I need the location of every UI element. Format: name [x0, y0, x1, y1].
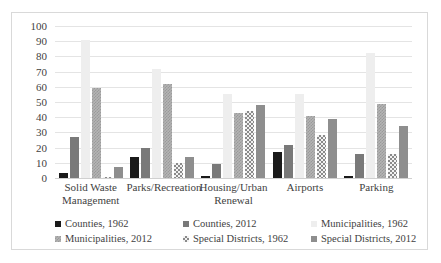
bar[interactable] [328, 119, 337, 178]
bar[interactable] [284, 145, 293, 178]
bar-group-bars [55, 26, 126, 178]
bar[interactable] [201, 176, 210, 178]
legend-item[interactable]: Municipalities, 1962 [311, 219, 408, 230]
y-axis: 1009080706050403020100 [12, 26, 52, 178]
bar[interactable] [388, 154, 397, 178]
y-axis-tick-label: 90 [36, 36, 47, 47]
legend-swatch-icon [311, 236, 317, 242]
bar[interactable] [344, 176, 353, 178]
y-axis-tick-label: 60 [36, 81, 47, 92]
x-axis-label-line: Parking [341, 181, 412, 194]
bar[interactable] [377, 104, 386, 178]
y-axis-tick-label: 100 [31, 21, 48, 32]
bar[interactable] [103, 177, 112, 178]
bar-group [269, 26, 340, 178]
x-axis-category-label: Parks/Recreation [126, 181, 197, 194]
bar[interactable] [59, 173, 68, 178]
x-axis: Solid WasteManagementParks/RecreationHou… [55, 181, 412, 217]
legend-item-label: Special Districts, 2012 [321, 234, 416, 245]
bar[interactable] [273, 152, 282, 178]
bar[interactable] [355, 154, 364, 178]
bar[interactable] [234, 113, 243, 178]
bar[interactable] [366, 53, 375, 178]
chart-legend: Counties, 1962Counties, 2012Municipaliti… [55, 218, 415, 248]
x-axis-category-label: Airports [269, 181, 340, 194]
chart-frame: 1009080706050403020100 Solid WasteManage… [11, 12, 428, 250]
bar[interactable] [306, 116, 315, 178]
x-axis-category-label: Housing/UrbanRenewal [198, 181, 269, 206]
y-axis-tick-label: 50 [36, 97, 47, 108]
x-axis-category-label: Parking [341, 181, 412, 194]
bar[interactable] [114, 167, 123, 178]
bar[interactable] [152, 69, 161, 178]
bar[interactable] [399, 126, 408, 178]
bar-group [55, 26, 126, 178]
y-axis-tick-label: 10 [36, 157, 47, 168]
legend-item-label: Municipalities, 1962 [321, 219, 408, 230]
y-axis-tick-label: 80 [36, 51, 47, 62]
gridline [55, 178, 412, 179]
bar-group [341, 26, 412, 178]
x-axis-label-line: Renewal [198, 194, 269, 207]
bar[interactable] [295, 94, 304, 178]
bar-group-bars [198, 26, 269, 178]
bar[interactable] [141, 148, 150, 178]
legend-swatch-icon [55, 236, 61, 242]
bar[interactable] [212, 164, 221, 178]
legend-swatch-icon [183, 236, 189, 242]
bar[interactable] [92, 88, 101, 178]
legend-swatch-icon [183, 221, 189, 227]
bar[interactable] [245, 111, 254, 178]
y-axis-tick-label: 40 [36, 112, 47, 123]
legend-swatch-icon [55, 221, 61, 227]
bar[interactable] [81, 40, 90, 178]
legend-item-label: Special Districts, 1962 [193, 234, 288, 245]
bar-group-bars [126, 26, 197, 178]
bar-group-bars [341, 26, 412, 178]
bar-group [198, 26, 269, 178]
bar-group [126, 26, 197, 178]
x-axis-label-line: Management [55, 194, 126, 207]
x-axis-label-line: Airports [269, 181, 340, 194]
bar[interactable] [185, 157, 194, 178]
bar[interactable] [223, 94, 232, 178]
bar-group-bars [269, 26, 340, 178]
legend-item[interactable]: Municipalities, 2012 [55, 234, 152, 245]
x-axis-label-line: Solid Waste [55, 181, 126, 194]
y-axis-tick-label: 30 [36, 127, 47, 138]
bar[interactable] [163, 84, 172, 178]
legend-item[interactable]: Counties, 2012 [183, 219, 257, 230]
y-axis-tick-label: 0 [42, 173, 48, 184]
bar[interactable] [174, 163, 183, 178]
legend-item[interactable]: Counties, 1962 [55, 219, 129, 230]
legend-item[interactable]: Special Districts, 1962 [183, 234, 288, 245]
y-axis-tick-label: 70 [36, 66, 47, 77]
x-axis-category-label: Solid WasteManagement [55, 181, 126, 206]
legend-item-label: Counties, 1962 [65, 219, 129, 230]
x-axis-label-line: Housing/Urban [198, 181, 269, 194]
x-axis-label-line: Parks/Recreation [126, 181, 197, 194]
bar[interactable] [130, 157, 139, 178]
bar[interactable] [70, 137, 79, 178]
plot-area [55, 26, 412, 178]
bar[interactable] [317, 135, 326, 178]
legend-swatch-icon [311, 221, 317, 227]
y-axis-tick-label: 20 [36, 142, 47, 153]
legend-item[interactable]: Special Districts, 2012 [311, 234, 416, 245]
legend-item-label: Counties, 2012 [193, 219, 257, 230]
bar[interactable] [256, 105, 265, 178]
legend-item-label: Municipalities, 2012 [65, 234, 152, 245]
